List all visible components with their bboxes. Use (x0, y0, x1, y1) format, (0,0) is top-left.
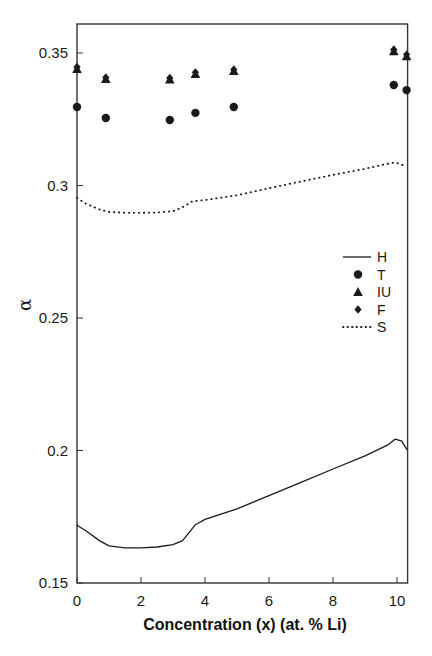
circle-marker (191, 109, 199, 117)
legend-label: T (377, 267, 386, 283)
x-axis-ticks: 0246810 (73, 577, 406, 609)
x-tick-label: 8 (329, 592, 337, 609)
circle-marker (402, 86, 410, 94)
x-axis-title: Concentration (x) (at. % Li) (143, 616, 347, 633)
legend-label: IU (377, 284, 391, 300)
series-h (77, 439, 407, 548)
series-iu (72, 46, 411, 83)
series-t (73, 81, 411, 124)
y-tick-label: 0.25 (39, 309, 68, 326)
circle-marker (390, 81, 398, 89)
series-layer (72, 45, 411, 547)
legend-circle-icon (354, 270, 362, 278)
series-s (77, 162, 407, 212)
x-tick-label: 2 (137, 592, 145, 609)
chart: 0.150.20.250.30.35 0246810 HTIUFS Concen… (0, 0, 432, 656)
x-tick-label: 10 (389, 592, 406, 609)
series-line-s (77, 162, 407, 212)
legend-item-t: T (354, 267, 386, 283)
x-tick-label: 4 (201, 592, 209, 609)
y-tick-label: 0.2 (47, 442, 68, 459)
y-tick-label: 0.35 (39, 44, 68, 61)
plot-frame (77, 24, 408, 583)
circle-marker (73, 103, 81, 111)
legend-item-h: H (343, 249, 387, 265)
y-tick-label: 0.3 (47, 177, 68, 194)
series-line-h (77, 439, 407, 548)
legend: HTIUFS (343, 249, 391, 335)
circle-marker (230, 103, 238, 111)
plot-border (77, 24, 408, 583)
legend-item-iu: IU (353, 284, 391, 300)
circle-marker (166, 116, 174, 124)
legend-label: H (377, 249, 387, 265)
y-tick-label: 0.15 (39, 574, 68, 591)
legend-triangle-icon (353, 287, 363, 296)
legend-label: S (377, 319, 386, 335)
y-axis-title: α (14, 299, 35, 311)
x-tick-label: 0 (73, 592, 81, 609)
legend-item-f: F (354, 302, 385, 318)
circle-marker (102, 114, 110, 122)
legend-label: F (377, 302, 386, 318)
legend-item-s: S (343, 319, 386, 335)
legend-diamond-icon (354, 305, 361, 313)
series-f (73, 45, 410, 82)
x-tick-label: 6 (265, 592, 273, 609)
